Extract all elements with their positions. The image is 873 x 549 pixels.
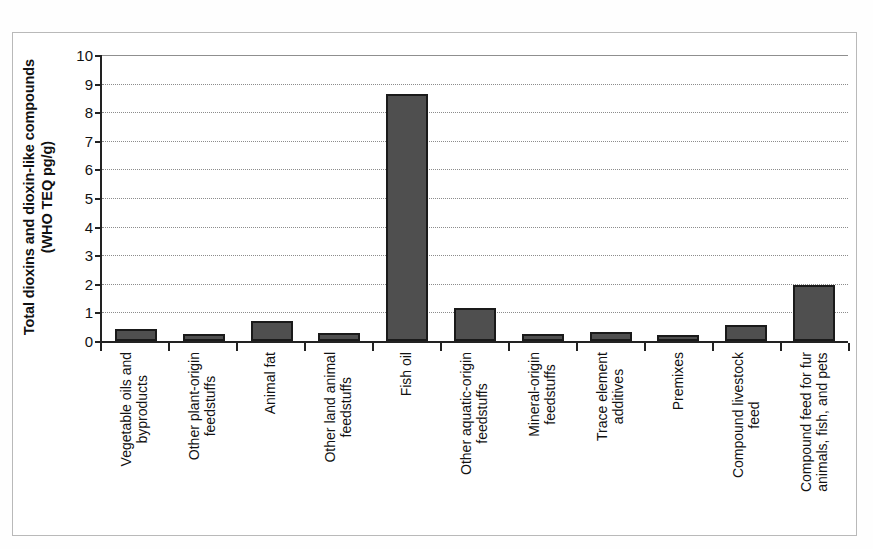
x-axis-tick-mark	[100, 343, 102, 351]
x-axis-tick-mark	[304, 343, 306, 351]
x-axis-category-label-line: Mineral-origin	[526, 352, 542, 437]
plot-area: 109876543210	[100, 55, 848, 343]
figure-container: Total dioxins and dioxin-like compounds …	[0, 0, 873, 549]
bar-slot	[102, 55, 170, 341]
y-axis-title-line-1: Total dioxins and dioxin-like compounds	[21, 59, 37, 335]
x-axis-label-slot: Other plant-originfeedstuffs	[168, 352, 236, 532]
y-axis-tick-label: 8	[59, 104, 93, 121]
bar	[386, 94, 428, 341]
x-axis-label-slot: Premixes	[644, 352, 712, 532]
bar-slot	[170, 55, 238, 341]
x-axis-category-label: Fish oil	[398, 352, 414, 396]
x-axis-labels-group: Vegetable oils andbyproductsOther plant-…	[100, 352, 848, 532]
bar-slot	[645, 55, 713, 341]
bars-group	[102, 55, 848, 341]
bar-slot	[441, 55, 509, 341]
bar-slot	[305, 55, 373, 341]
y-axis-tick-label: 2	[59, 275, 93, 292]
bar	[725, 325, 767, 341]
y-axis-title: Total dioxins and dioxin-like compounds …	[20, 59, 56, 335]
x-axis-category-label: Other land animalfeedstuffs	[322, 352, 354, 463]
x-axis-category-label-line: Compound feed for fur	[798, 352, 814, 492]
x-axis-category-label: Premixes	[670, 352, 686, 410]
x-axis-category-label: Other aquatic-originfeedstuffs	[458, 352, 490, 475]
bar	[793, 285, 835, 341]
bar	[318, 333, 360, 341]
bar-slot	[373, 55, 441, 341]
x-axis-label-slot: Fish oil	[372, 352, 440, 532]
x-axis-category-label: Mineral-originfeedstuffs	[526, 352, 558, 437]
x-axis-category-label-line: Compound livestock	[730, 352, 746, 478]
y-axis-tick-label: 4	[59, 218, 93, 235]
y-axis-tick-mark	[95, 255, 102, 257]
x-axis-label-slot: Trace elementadditives	[576, 352, 644, 532]
y-axis-tick-label: 6	[59, 161, 93, 178]
bar	[657, 335, 699, 341]
x-axis-category-label-line: feed	[746, 352, 762, 478]
x-axis-tick-mark	[712, 343, 714, 351]
x-axis-category-label: Vegetable oils andbyproducts	[118, 352, 150, 466]
x-axis-tick-mark	[644, 343, 646, 351]
x-axis-category-label: Compound livestockfeed	[730, 352, 762, 478]
x-axis-label-slot: Mineral-originfeedstuffs	[508, 352, 576, 532]
y-axis-tick-mark	[95, 169, 102, 171]
bar	[251, 321, 293, 341]
y-axis-tick-label: 1	[59, 304, 93, 321]
x-axis-tick-mark	[508, 343, 510, 351]
y-axis-tick-mark	[95, 84, 102, 86]
y-axis-tick-mark	[95, 227, 102, 229]
x-axis-category-label-line: Other plant-origin	[186, 352, 202, 460]
x-axis-category-label-line: feedstuffs	[338, 352, 354, 463]
y-axis-tick-label: 0	[59, 333, 93, 350]
bar	[590, 332, 632, 341]
bar-slot	[238, 55, 306, 341]
y-axis-tick-mark	[95, 112, 102, 114]
x-axis-ticks-group	[100, 343, 848, 351]
bar-slot	[577, 55, 645, 341]
x-axis-category-label-line: feedstuffs	[202, 352, 218, 460]
x-axis-category-label-line: Other land animal	[322, 352, 338, 463]
x-axis-category-label-line: Other aquatic-origin	[458, 352, 474, 475]
x-axis-category-label-line: Trace element	[594, 352, 610, 441]
bar-slot	[712, 55, 780, 341]
y-axis-tick-mark	[95, 312, 102, 314]
x-axis-label-slot: Other land animalfeedstuffs	[304, 352, 372, 532]
x-axis-category-label: Animal fat	[262, 352, 278, 414]
x-axis-tick-mark	[440, 343, 442, 351]
x-axis-category-label: Trace elementadditives	[594, 352, 626, 441]
y-axis-tick-label: 3	[59, 247, 93, 264]
x-axis-tick-mark	[168, 343, 170, 351]
bar-slot	[780, 55, 848, 341]
x-axis-label-slot: Compound feed for furanimals, fish, and …	[780, 352, 848, 532]
x-axis-category-label-line: Premixes	[670, 352, 686, 410]
x-axis-category-label-line: Animal fat	[262, 352, 278, 414]
x-axis-tick-mark	[576, 343, 578, 351]
x-axis-category-label-line: feedstuffs	[474, 352, 490, 475]
bar	[115, 329, 157, 341]
y-axis-title-container: Total dioxins and dioxin-like compounds …	[16, 32, 60, 362]
x-axis-label-slot: Compound livestockfeed	[712, 352, 780, 532]
y-axis-tick-label: 7	[59, 132, 93, 149]
x-axis-tick-mark	[372, 343, 374, 351]
x-axis-category-label: Other plant-originfeedstuffs	[186, 352, 218, 460]
y-axis-tick-label: 9	[59, 75, 93, 92]
x-axis-label-slot: Animal fat	[236, 352, 304, 532]
bar	[183, 334, 225, 341]
x-axis-tick-mark	[848, 343, 850, 351]
y-axis-tick-label: 10	[59, 47, 93, 64]
y-axis-tick-mark	[95, 141, 102, 143]
bar-slot	[509, 55, 577, 341]
bar	[454, 308, 496, 341]
y-axis-title-line-2: (WHO TEQ pg/g)	[38, 59, 56, 335]
x-axis-category-label-line: byproducts	[134, 352, 150, 466]
x-axis-category-label-line: Fish oil	[398, 352, 414, 396]
y-axis-tick-mark	[95, 55, 102, 57]
x-axis-category-label-line: feedstuffs	[542, 352, 558, 437]
y-axis-tick-mark	[95, 198, 102, 200]
y-axis-tick-label: 5	[59, 190, 93, 207]
bar	[522, 334, 564, 341]
x-axis-category-label-line: additives	[610, 352, 626, 441]
x-axis-category-label: Compound feed for furanimals, fish, and …	[798, 352, 830, 492]
x-axis-label-slot: Vegetable oils andbyproducts	[100, 352, 168, 532]
x-axis-category-label-line: animals, fish, and pets	[814, 352, 830, 492]
